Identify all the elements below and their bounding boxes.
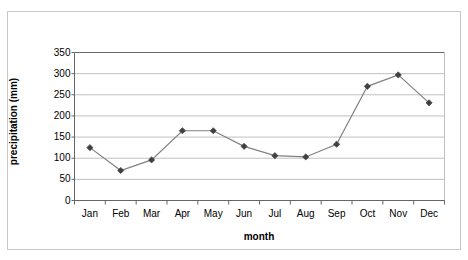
y-tick-label: 300 — [27, 68, 71, 79]
x-tick-label: Jul — [260, 208, 291, 219]
y-tick-label: 350 — [27, 47, 71, 58]
x-tick-label: Oct — [352, 208, 383, 219]
y-tick-label: 100 — [27, 152, 71, 163]
x-tick-label: Mar — [136, 208, 167, 219]
y-tick-label: 50 — [27, 173, 71, 184]
x-tick-label: Jan — [75, 208, 106, 219]
x-tick-label: Sep — [321, 208, 352, 219]
x-tick-label: Nov — [383, 208, 414, 219]
x-tick-label: Aug — [290, 208, 321, 219]
x-tick-label: Dec — [414, 208, 445, 219]
x-axis-title: month — [74, 231, 444, 242]
labels-layer: precipitation (mm) month 050100150200250… — [0, 0, 468, 260]
x-tick-label: Apr — [167, 208, 198, 219]
y-tick-label: 250 — [27, 89, 71, 100]
x-tick-label: Jun — [229, 208, 260, 219]
y-tick-label: 200 — [27, 110, 71, 121]
y-axis-title: precipitation (mm) — [8, 47, 19, 197]
x-tick-label: Feb — [105, 208, 136, 219]
y-tick-label: 150 — [27, 131, 71, 142]
x-tick-label: May — [198, 208, 229, 219]
y-tick-label: 0 — [27, 195, 71, 206]
